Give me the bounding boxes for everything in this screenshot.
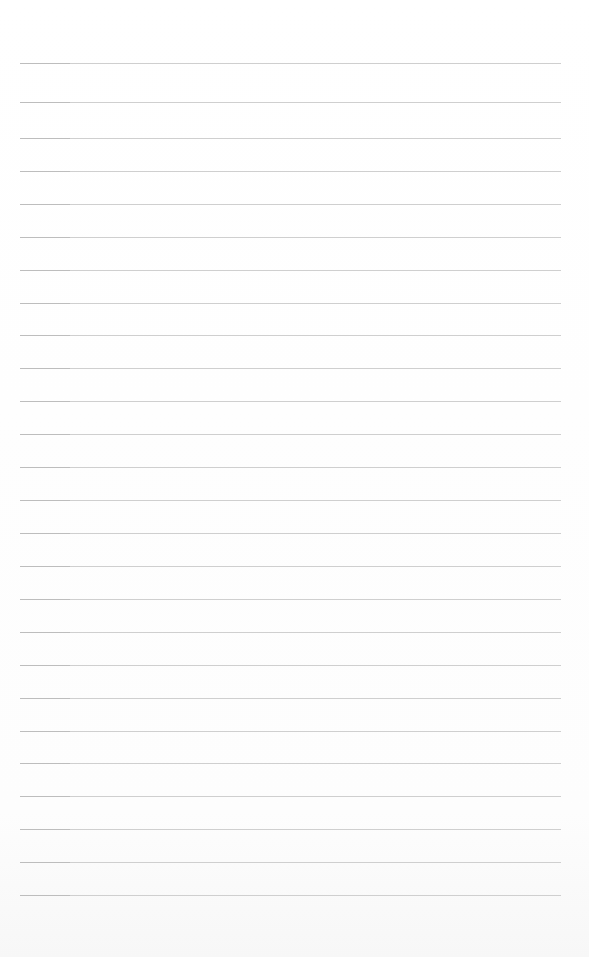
ruled-line <box>20 796 561 797</box>
ruled-line <box>20 632 561 633</box>
ruled-line <box>20 895 561 896</box>
ruled-line <box>20 102 561 103</box>
ruled-line <box>20 599 561 600</box>
ruled-line <box>20 401 561 402</box>
ruled-line <box>20 368 561 369</box>
ruled-line <box>20 237 561 238</box>
ruled-line <box>20 566 561 567</box>
ruled-line <box>20 533 561 534</box>
ruled-line <box>20 467 561 468</box>
ruled-line <box>20 138 561 139</box>
ruled-line <box>20 829 561 830</box>
ruled-line <box>20 862 561 863</box>
ruled-line <box>20 171 561 172</box>
ruled-line <box>20 698 561 699</box>
ruled-line <box>20 665 561 666</box>
ruled-line <box>20 63 561 64</box>
ruled-line <box>20 204 561 205</box>
ruled-line <box>20 303 561 304</box>
lined-paper-sheet <box>0 0 589 957</box>
ruled-line <box>20 434 561 435</box>
ruled-line <box>20 763 561 764</box>
ruled-line <box>20 731 561 732</box>
ruled-line <box>20 500 561 501</box>
ruled-line <box>20 270 561 271</box>
ruled-line <box>20 335 561 336</box>
